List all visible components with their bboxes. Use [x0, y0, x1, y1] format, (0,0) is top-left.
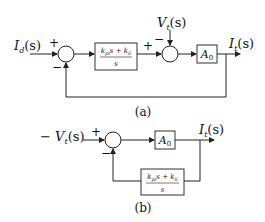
sum2-plus-sign: +	[143, 39, 153, 53]
caption-a: (a)	[135, 105, 152, 119]
sum-minus-sign-b: −	[101, 146, 111, 160]
feedback-return-line-b	[113, 149, 141, 181]
feedback-denominator: s	[161, 186, 165, 194]
diagram-b: − Vt(s) + − A0 It(s) kpis + kii s (b)	[40, 122, 224, 215]
controller-denominator: s	[114, 60, 118, 68]
input-label-neg-vt: − Vt(s)	[40, 129, 84, 146]
caption-b: (b)	[134, 201, 151, 215]
feedback-branch-line-b	[184, 140, 200, 181]
block-diagram-figure: Id(s) + − kpis + kii s + Vt(s) − A0 It(s…	[0, 0, 265, 222]
disturbance-label-vt: Vt(s)	[157, 15, 186, 32]
sum2-minus-sign: −	[154, 32, 164, 46]
sum1-minus-sign: −	[52, 60, 62, 74]
sum-plus-sign-b: +	[91, 125, 101, 139]
output-label-it-b: It(s)	[198, 122, 224, 139]
output-label-it: It(s)	[228, 36, 254, 53]
sum1-plus-sign: +	[49, 36, 59, 50]
input-label-id: Id(s)	[13, 38, 41, 55]
diagram-a: Id(s) + − kpis + kii s + Vt(s) − A0 It(s…	[13, 15, 254, 119]
summing-junction-2	[162, 46, 178, 62]
